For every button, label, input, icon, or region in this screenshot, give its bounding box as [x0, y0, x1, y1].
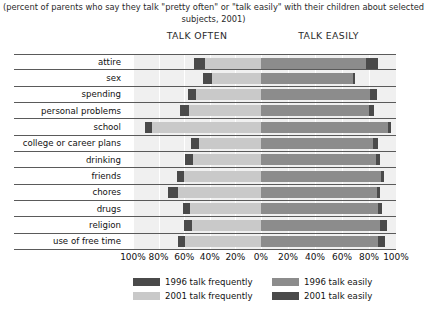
legend-label: 1996 talk easily [304, 277, 372, 287]
axis-tick-label: 60% [332, 252, 352, 262]
bar-2001-talk-frequently [173, 187, 261, 198]
gridline [396, 185, 397, 200]
legend-item[interactable]: 1996 talk easily [272, 277, 372, 287]
gridline [133, 168, 134, 183]
row-plot-band [133, 152, 396, 167]
row-plot-band [133, 185, 396, 200]
bar-1996-talk-frequently [188, 89, 196, 100]
axis-tick-label: 40% [200, 252, 220, 262]
gridline [133, 55, 134, 69]
bar-2001-talk-easily [376, 154, 380, 165]
row-plot-band [133, 201, 396, 216]
chart-row: chores [14, 185, 396, 201]
row-plot-band [133, 55, 396, 69]
bar-1996-talk-easily [261, 187, 377, 198]
axis-tick-label: 20% [278, 252, 298, 262]
legend-item[interactable]: 1996 talk frequently [133, 277, 252, 287]
axis-tick-label: 60% [174, 252, 194, 262]
row-plot-band [133, 168, 396, 183]
axis-tick-label: 100% [383, 252, 409, 262]
gridline [133, 119, 134, 134]
bar-2001-talk-easily [369, 105, 374, 116]
chart-row: drugs [14, 201, 396, 217]
category-label: sex [14, 70, 126, 85]
gridline [184, 87, 185, 102]
legend-label: 2001 talk easily [304, 291, 372, 301]
bar-1996-talk-easily [261, 154, 376, 165]
gridline [184, 136, 185, 151]
gridline [184, 70, 185, 85]
bar-1996-talk-easily [261, 138, 373, 149]
chart-plot-area: attiresexspendingpersonal problemsschool… [14, 54, 396, 250]
bar-2001-talk-frequently [207, 73, 261, 84]
bar-2001-talk-frequently [200, 58, 261, 69]
chart-row: use of free time [14, 234, 396, 250]
legend-item[interactable]: 2001 talk frequently [133, 291, 252, 301]
bar-1996-talk-frequently [184, 220, 192, 231]
bar-2001-talk-frequently [179, 171, 261, 182]
category-label: personal problems [14, 103, 126, 118]
legend-item[interactable]: 2001 talk easily [272, 291, 372, 301]
category-label: attire [14, 55, 126, 69]
gridline [396, 217, 397, 232]
row-plot-band [133, 136, 396, 151]
gridline [159, 234, 160, 249]
gridline [396, 201, 397, 216]
row-plot-band [133, 70, 396, 85]
gridline [396, 168, 397, 183]
category-label: school [14, 119, 126, 134]
gridline [159, 103, 160, 118]
bar-2001-talk-easily [378, 203, 382, 214]
bar-2001-talk-easily [373, 138, 378, 149]
row-plot-band [133, 119, 396, 134]
panel-header-talk-easily: TALK EASILY [261, 30, 396, 41]
bar-2001-talk-frequently [191, 89, 261, 100]
gridline [369, 70, 370, 85]
gridline [184, 55, 185, 69]
gridline [133, 136, 134, 151]
bar-1996-talk-frequently [183, 203, 191, 214]
panel-header-talk-often: TALK OFTEN [133, 30, 261, 41]
gridline [133, 152, 134, 167]
chart-subtitle: (percent of parents who say they talk "p… [0, 2, 427, 25]
bar-1996-talk-frequently [145, 122, 153, 133]
gridline [396, 70, 397, 85]
legend-swatch [272, 278, 299, 286]
bar-2001-talk-easily [388, 122, 391, 133]
chart-row: personal problems [14, 103, 396, 119]
row-plot-band [133, 217, 396, 232]
gridline [396, 103, 397, 118]
bar-2001-talk-frequently [147, 122, 261, 133]
gridline [159, 201, 160, 216]
gridline [159, 55, 160, 69]
gridline [159, 136, 160, 151]
row-plot-band [133, 87, 396, 102]
gridline [159, 70, 160, 85]
category-label: religion [14, 217, 126, 232]
gridline [133, 70, 134, 85]
chart-row: attire [14, 54, 396, 70]
gridline [396, 119, 397, 134]
bar-2001-talk-easily [366, 58, 378, 69]
bar-1996-talk-frequently [168, 187, 178, 198]
bar-2001-talk-frequently [187, 220, 261, 231]
gridline [159, 87, 160, 102]
chart-row: school [14, 119, 396, 135]
category-label: use of free time [14, 234, 126, 249]
legend-label: 1996 talk frequently [165, 277, 252, 287]
bar-1996-talk-easily [261, 89, 370, 100]
legend-swatch [133, 292, 160, 300]
chart-row: drinking [14, 152, 396, 168]
row-plot-band [133, 234, 396, 249]
chart-row: friends [14, 168, 396, 184]
bar-2001-talk-frequently [185, 203, 261, 214]
category-label: spending [14, 87, 126, 102]
category-label: college or career plans [14, 136, 126, 151]
bar-1996-talk-easily [261, 220, 380, 231]
category-label: chores [14, 185, 126, 200]
chart-row: college or career plans [14, 136, 396, 152]
bar-1996-talk-frequently [185, 154, 193, 165]
gridline [159, 217, 160, 232]
chart-row: religion [14, 217, 396, 233]
chart-x-axis: 100%80%60%40%20%0%20%40%60%80%100% [14, 252, 396, 266]
